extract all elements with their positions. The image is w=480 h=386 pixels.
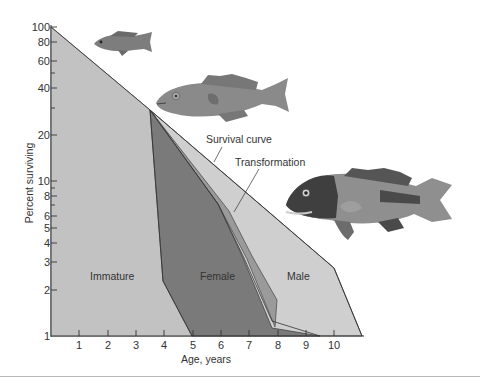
x-tick-9: 9: [303, 339, 309, 351]
x-tick-8: 8: [275, 339, 281, 351]
y-tick-6: 6: [44, 210, 50, 222]
y-tick-40: 40: [38, 82, 50, 94]
y-tick-1: 1: [44, 330, 50, 342]
y-tick-60: 60: [38, 55, 50, 67]
y-tick-4: 4: [44, 237, 50, 249]
male-label: Male: [287, 270, 310, 282]
x-tick-6: 6: [218, 339, 224, 351]
y-tick-3: 3: [44, 256, 50, 268]
survival-curve-annotation: Survival curve: [206, 133, 272, 145]
transformation-annotation: Transformation: [235, 156, 305, 168]
x-tick-4: 4: [161, 339, 167, 351]
immature-label: Immature: [90, 270, 135, 282]
y-tick-8: 8: [44, 190, 50, 202]
x-tick-7: 7: [246, 339, 252, 351]
small-fish-icon: [94, 31, 152, 56]
x-tick-1: 1: [76, 339, 82, 351]
female-fish-icon: [156, 74, 289, 122]
y-tick-100: 100: [32, 21, 50, 33]
y-tick-2: 2: [44, 284, 50, 296]
female-label: Female: [200, 270, 235, 282]
x-tick-3: 3: [133, 339, 139, 351]
survival-chart: 100 80 60 40 20 10 8 6 5 4 3 2 1 Percent…: [0, 0, 480, 386]
survival-curve-leader: [214, 147, 222, 162]
x-axis-title: Age, years: [181, 353, 231, 365]
x-tick-2: 2: [105, 339, 111, 351]
x-tick-10: 10: [328, 339, 340, 351]
bottom-divider: [0, 376, 480, 377]
y-axis-title: Percent surviving: [23, 143, 35, 224]
y-tick-5: 5: [44, 222, 50, 234]
y-tick-20: 20: [38, 129, 50, 141]
y-tick-80: 80: [38, 36, 50, 48]
male-fish-icon: [286, 168, 452, 240]
y-tick-10: 10: [38, 175, 50, 187]
x-tick-5: 5: [190, 339, 196, 351]
